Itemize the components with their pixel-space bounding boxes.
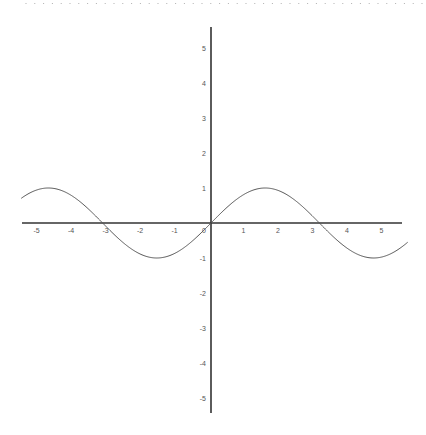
y-tick-label: -2 bbox=[200, 290, 206, 297]
x-tick-label: -1 bbox=[171, 227, 177, 234]
x-tick-label: 5 bbox=[380, 227, 384, 234]
y-tick-label: -3 bbox=[200, 325, 206, 332]
x-tick-label: -4 bbox=[68, 227, 74, 234]
dotted-top-border bbox=[25, 3, 422, 4]
sine-chart: -5-4-3-2-1012345 -5-4-3-2-112345 bbox=[0, 0, 426, 435]
y-tick-label: 5 bbox=[202, 45, 206, 52]
y-tick-label: 2 bbox=[202, 150, 206, 157]
y-tick-label: -1 bbox=[200, 255, 206, 262]
x-tick-label: 2 bbox=[276, 227, 280, 234]
y-tick-label: 1 bbox=[202, 185, 206, 192]
x-tick-label: 1 bbox=[242, 227, 246, 234]
x-tick-label: -2 bbox=[137, 227, 143, 234]
y-tick-label: 4 bbox=[202, 80, 206, 87]
x-tick-label: -5 bbox=[33, 227, 39, 234]
y-tick-label: -5 bbox=[200, 395, 206, 402]
x-tick-labels: -5-4-3-2-1012345 bbox=[33, 227, 383, 234]
x-tick-label: 3 bbox=[311, 227, 315, 234]
x-tick-label: 4 bbox=[345, 227, 349, 234]
y-tick-label: -4 bbox=[200, 360, 206, 367]
y-tick-label: 3 bbox=[202, 115, 206, 122]
